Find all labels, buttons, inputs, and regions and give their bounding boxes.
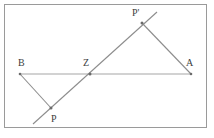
point-marker-b bbox=[19, 73, 22, 76]
point-marker-pprime bbox=[141, 22, 144, 25]
segment-group bbox=[20, 12, 191, 124]
point-marker-z bbox=[89, 73, 92, 76]
point-label-p: P bbox=[51, 114, 57, 124]
segment-b-p bbox=[20, 74, 51, 108]
point-label-pprime: P' bbox=[132, 8, 139, 18]
segment-pprime-a bbox=[142, 23, 191, 74]
point-marker-group bbox=[19, 22, 193, 110]
point-label-b: B bbox=[18, 58, 25, 68]
point-marker-p bbox=[50, 107, 53, 110]
geometry-figure: B Z A P' P bbox=[0, 0, 214, 138]
point-label-a: A bbox=[186, 58, 193, 68]
figure-drawing bbox=[0, 0, 214, 138]
point-label-z: Z bbox=[83, 58, 89, 68]
point-marker-a bbox=[190, 73, 193, 76]
